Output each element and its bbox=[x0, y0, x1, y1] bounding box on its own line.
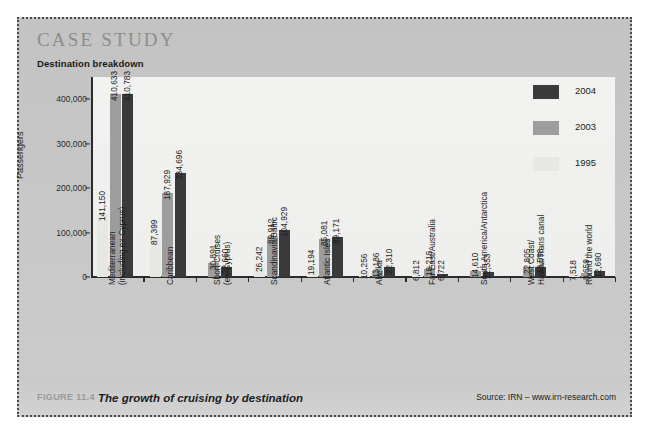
x-tick-mark bbox=[510, 277, 511, 282]
bar-value-label: 234,696 bbox=[174, 150, 184, 180]
x-category-label: Short Cruises(ex-Cyprus) bbox=[212, 235, 232, 285]
legend-label: 1995 bbox=[575, 157, 596, 168]
source-note: Source: IRN – www.irn-research.com bbox=[476, 392, 616, 402]
figure-caption: The growth of cruising by destination bbox=[98, 392, 303, 404]
x-tick-mark bbox=[248, 277, 249, 282]
bar-value-label: 6,812 bbox=[411, 260, 421, 281]
y-tick-mark bbox=[85, 232, 90, 233]
bar-value-label: 22,310 bbox=[384, 249, 394, 274]
y-axis-line bbox=[91, 77, 93, 277]
y-tick-label: 200,000 bbox=[56, 183, 87, 193]
legend-label: 2004 bbox=[575, 85, 596, 96]
bar-value-label: 104,929 bbox=[279, 207, 289, 237]
x-tick-mark bbox=[563, 277, 564, 282]
x-category-label-line: Atlantic Isles bbox=[322, 238, 332, 285]
bar-value-label: 26,242 bbox=[254, 247, 264, 272]
x-category-label-line: Round the world bbox=[584, 225, 594, 285]
x-category-label: Atlantic Isles bbox=[322, 238, 332, 285]
x-tick-mark bbox=[143, 277, 144, 282]
y-tick-mark bbox=[85, 99, 90, 100]
x-category-label: Mediterranean(including ex-Cyprus) bbox=[107, 207, 127, 285]
y-axis-title: Passengers bbox=[15, 131, 25, 179]
x-category-label: West Coast/Hawaii/Trans canal bbox=[526, 215, 546, 285]
bar-value-label: 87,399 bbox=[149, 220, 159, 245]
x-category-label-line: Caribbean bbox=[165, 247, 175, 285]
legend-label: 2003 bbox=[575, 121, 596, 132]
y-tick-label: 400,000 bbox=[56, 94, 87, 104]
x-category-label: Alaska bbox=[374, 260, 384, 285]
x-category-label-line: South America/Antarctica bbox=[479, 192, 489, 285]
x-category-label-line: Hawaii/Trans canal bbox=[536, 215, 546, 285]
x-tick-mark bbox=[615, 277, 616, 282]
x-category-label-line: Far East/Australia bbox=[427, 219, 437, 285]
legend-swatch-icon bbox=[533, 85, 559, 99]
bar-value-label: 89,171 bbox=[331, 219, 341, 244]
legend-swatch-icon bbox=[533, 121, 559, 135]
x-category-label-line: West Coast/ bbox=[526, 215, 536, 285]
y-tick-mark bbox=[85, 276, 90, 277]
bar-value-label: 19,194 bbox=[306, 250, 316, 275]
x-category-label: Scandinavia/Baltic bbox=[269, 217, 279, 285]
x-category-label-line: (including ex-Cyprus) bbox=[117, 207, 127, 285]
y-tick-label: 100,000 bbox=[56, 228, 87, 238]
y-tick-mark bbox=[85, 143, 90, 144]
bar-value-label: 410,633 bbox=[109, 71, 119, 101]
figure-number: FIGURE 11.4 bbox=[37, 392, 95, 402]
y-tick-label: 300,000 bbox=[56, 139, 87, 149]
x-category-label-line: Short Cruises bbox=[212, 235, 222, 285]
x-tick-mark bbox=[405, 277, 406, 282]
x-category-label: South America/Antarctica bbox=[479, 192, 489, 285]
x-category-label-line: Alaska bbox=[374, 260, 384, 285]
x-tick-mark bbox=[301, 277, 302, 282]
y-axis-ticks: 0100,000200,000300,000400,000 bbox=[19, 19, 87, 431]
x-category-label: Round the world bbox=[584, 225, 594, 285]
bar-value-label: 7,518 bbox=[568, 260, 578, 281]
bar-value-label: 141,150 bbox=[97, 191, 107, 221]
bar-value-label: 187,929 bbox=[162, 170, 172, 200]
bar-2004-3 bbox=[279, 230, 290, 277]
bar-value-label: 12,690 bbox=[593, 253, 603, 278]
bar-value-label: 410,783 bbox=[122, 71, 132, 101]
x-tick-mark bbox=[196, 277, 197, 282]
x-category-label-line: Mediterranean bbox=[107, 207, 117, 285]
x-tick-mark bbox=[353, 277, 354, 282]
bar-2004-1 bbox=[175, 173, 186, 277]
x-category-label-line: (ex-Cyprus) bbox=[222, 235, 232, 285]
x-category-label: Far East/Australia bbox=[427, 219, 437, 285]
bar-value-label: 6,722 bbox=[436, 260, 446, 281]
x-category-label-line: Scandinavia/Baltic bbox=[269, 217, 279, 285]
legend-swatch-icon bbox=[533, 157, 559, 171]
figure-footer: FIGURE 11.4 The growth of cruising by de… bbox=[19, 375, 630, 415]
bar-value-label: 10,256 bbox=[359, 254, 369, 279]
x-tick-mark bbox=[458, 277, 459, 282]
case-study-panel: CASE STUDY Destination breakdown 0100,00… bbox=[17, 17, 632, 417]
x-category-label: Caribbean bbox=[165, 247, 175, 285]
y-tick-mark bbox=[85, 188, 90, 189]
